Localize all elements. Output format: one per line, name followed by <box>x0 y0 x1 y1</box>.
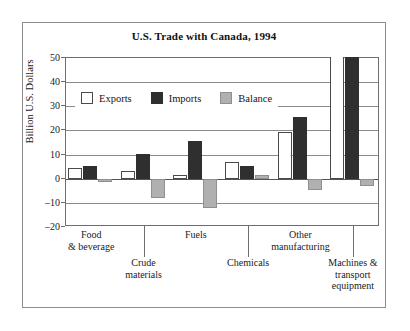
legend-item-imports: Imports <box>151 92 202 104</box>
category-label-line: Crude <box>98 257 190 269</box>
bar-exports <box>225 162 239 179</box>
bar-imports <box>188 141 202 178</box>
category-label-line: manufacturing <box>255 241 347 253</box>
bar-imports <box>136 154 150 179</box>
plot-area <box>65 57 379 226</box>
y-tick-label: –10 <box>20 196 65 207</box>
category-label-line: Machines & <box>307 257 399 269</box>
category-label-line: equipment <box>307 280 399 292</box>
y-tick-mark <box>61 226 65 227</box>
y-tick-label: 10 <box>20 148 65 159</box>
bar-balance <box>308 179 322 190</box>
category-label-line: materials <box>98 269 190 281</box>
category-label: Fuels <box>150 229 242 241</box>
legend-swatch-exports <box>81 92 93 104</box>
bar-exports <box>278 132 292 179</box>
category-leader-line <box>248 226 249 257</box>
bar-imports <box>240 166 254 179</box>
chart-page: U.S. Trade with Canada, 1994 Billion U.S… <box>0 0 410 331</box>
category-label-line: transport <box>307 269 399 281</box>
y-tick-label: 50 <box>20 52 65 63</box>
bar-exports <box>330 57 344 179</box>
gridline <box>66 203 378 204</box>
bar-exports <box>68 168 82 179</box>
bar-imports <box>83 166 97 179</box>
legend-label-imports: Imports <box>169 93 202 104</box>
bar-balance <box>360 179 374 186</box>
y-tick-label: 20 <box>20 124 65 135</box>
bar-balance <box>255 175 269 179</box>
category-label-line: Fuels <box>150 229 242 241</box>
category-label: Food& beverage <box>45 229 137 252</box>
category-label: Othermanufacturing <box>255 229 347 252</box>
category-label-line: & beverage <box>45 241 137 253</box>
chart-legend: Exports Imports Balance <box>75 89 278 107</box>
legend-item-exports: Exports <box>81 92 132 104</box>
category-label-line: Other <box>255 229 347 241</box>
category-leader-line <box>144 226 145 257</box>
y-tick-label: 0 <box>20 172 65 183</box>
category-label: Crudematerials <box>98 257 190 280</box>
legend-swatch-balance <box>220 92 232 104</box>
legend-label-exports: Exports <box>99 93 132 104</box>
y-tick-label: 30 <box>20 100 65 111</box>
bar-balance <box>203 179 217 208</box>
category-label: Chemicals <box>202 257 294 269</box>
bar-imports <box>345 57 359 179</box>
y-tick-label: 40 <box>20 76 65 87</box>
bar-exports <box>121 171 135 178</box>
bar-balance <box>98 179 112 182</box>
zero-line <box>66 179 378 180</box>
category-leader-line <box>353 226 354 257</box>
category-label-line: Food <box>45 229 137 241</box>
legend-item-balance: Balance <box>220 92 272 104</box>
legend-swatch-imports <box>151 92 163 104</box>
bar-exports <box>173 175 187 179</box>
chart-title: U.S. Trade with Canada, 1994 <box>22 30 386 42</box>
bar-balance <box>151 179 165 198</box>
category-label: Machines &transportequipment <box>307 257 399 292</box>
legend-label-balance: Balance <box>238 93 272 104</box>
y-axis-ticks: 50403020100–10–20 <box>17 57 65 226</box>
bar-imports <box>293 117 307 179</box>
category-label-line: Chemicals <box>202 257 294 269</box>
